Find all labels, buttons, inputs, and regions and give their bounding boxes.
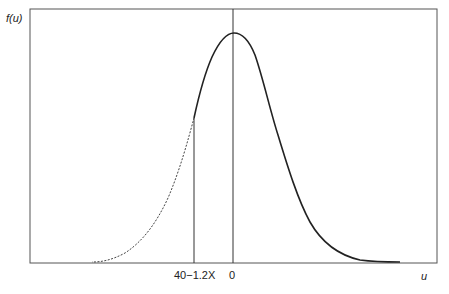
cutoff-label: 40−1.2X — [174, 269, 215, 281]
y-axis-label: f(u) — [6, 12, 23, 24]
density-curve-solid — [194, 33, 400, 262]
x-axis-label: u — [421, 270, 427, 282]
density-plot — [0, 0, 449, 294]
zero-label: 0 — [229, 269, 235, 281]
density-curve-dashed — [92, 118, 194, 262]
